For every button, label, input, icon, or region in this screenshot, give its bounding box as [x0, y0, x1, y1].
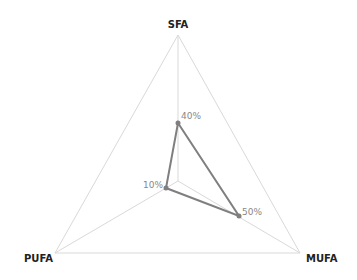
- axis-label-mufa: MUFA: [306, 253, 338, 264]
- data-series: [166, 123, 239, 216]
- value-label-pufa: 10%: [143, 180, 163, 190]
- radar-chart: 40% 50% 10% SFA MUFA PUFA: [0, 0, 357, 280]
- value-label-mufa: 50%: [242, 207, 262, 217]
- value-label-sfa: 40%: [181, 111, 201, 121]
- axis-label-pufa: PUFA: [24, 253, 53, 264]
- axis-label-sfa: SFA: [168, 19, 189, 30]
- spoke-pufa: [55, 181, 178, 253]
- data-point-sfa[interactable]: [176, 121, 181, 126]
- data-point-mufa[interactable]: [237, 214, 242, 219]
- data-point-pufa[interactable]: [164, 186, 169, 191]
